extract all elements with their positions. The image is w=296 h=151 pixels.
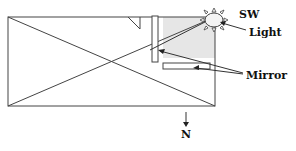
label-mirror: Mirror <box>246 70 287 81</box>
light-pointer-line <box>222 23 246 30</box>
label-n: N <box>181 129 191 140</box>
label-light: Light <box>249 27 282 38</box>
vertical-mirror <box>152 16 158 62</box>
horizontal-mirror <box>163 63 210 69</box>
north-arrow-head <box>183 122 189 127</box>
label-sw: SW <box>239 9 259 20</box>
corner-notch <box>128 17 140 29</box>
